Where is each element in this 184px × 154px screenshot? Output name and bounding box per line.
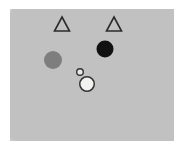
scene-root <box>0 0 184 154</box>
circle-gray-filled-icon <box>41 48 65 72</box>
circle-white-large-outlined-icon <box>76 73 98 95</box>
triangle-right-outline-icon <box>104 14 124 34</box>
circle-black-filled-icon <box>93 37 117 61</box>
triangle-left-outline-icon <box>52 14 72 34</box>
